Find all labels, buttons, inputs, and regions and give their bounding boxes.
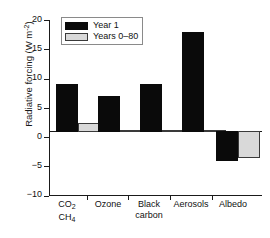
ch4-subscript: 4 [72, 216, 76, 223]
y-tick-label-0: 0 [2, 132, 42, 141]
legend-entry-years-0-80: Years 0–80 [65, 31, 138, 42]
bar-years0-80-ozone [120, 130, 142, 132]
x-category-label-co2: CO2 [47, 199, 87, 212]
y-tick-label-neg5: −5 [2, 161, 42, 170]
co2-subscript: 2 [72, 203, 76, 210]
legend-label-years-0-80: Years 0–80 [93, 32, 138, 41]
x-category-label-co2-ch4: CO2 CH4 [47, 199, 87, 226]
y-tick-label-5: 5 [2, 103, 42, 112]
x-category-label-aerosols-line1: Aerosols [170, 199, 212, 210]
radiative-forcing-bar-chart: Radiative forcing (W m-2) 20 15 10 5 0 −… [0, 0, 270, 238]
legend-swatch-year-1 [65, 22, 88, 30]
x-category-label-albedo: Albedo [212, 199, 254, 210]
bar-years0-80-co2-ch4 [78, 123, 100, 132]
bar-years0-80-black-carbon [162, 130, 184, 132]
x-category-label-black-carbon: Black carbon [128, 199, 170, 220]
legend-swatch-years-0-80 [65, 33, 88, 41]
legend-label-year-1: Year 1 [93, 21, 119, 30]
legend: Year 1 Years 0–80 [61, 17, 143, 45]
bar-year1-aerosols [182, 32, 204, 132]
x-category-label-ozone-line1: Ozone [88, 199, 128, 210]
bar-years0-80-albedo [238, 131, 260, 158]
y-axis-title-exponent: -2 [23, 24, 30, 30]
legend-entry-year-1: Year 1 [65, 20, 138, 31]
x-category-label-ozone: Ozone [88, 199, 128, 210]
x-category-label-black-carbon-line2: carbon [128, 210, 170, 221]
y-tick-label-15: 15 [2, 44, 42, 53]
y-tick-label-10: 10 [2, 73, 42, 82]
x-category-label-black-carbon-line1: Black [128, 199, 170, 210]
plot-area [49, 20, 262, 196]
y-tick-label-neg10: −10 [2, 190, 42, 199]
y-tick-label-20: 20 [2, 15, 42, 24]
y-tick-mark-neg10 [44, 196, 49, 197]
x-category-label-aerosols: Aerosols [170, 199, 212, 210]
bar-year1-co2-ch4 [56, 84, 78, 132]
bar-year1-ozone [98, 96, 120, 132]
x-category-label-ch4: CH4 [47, 212, 87, 225]
bar-year1-albedo [216, 131, 238, 161]
x-category-label-albedo-line1: Albedo [212, 199, 254, 210]
bar-year1-black-carbon [140, 84, 162, 132]
